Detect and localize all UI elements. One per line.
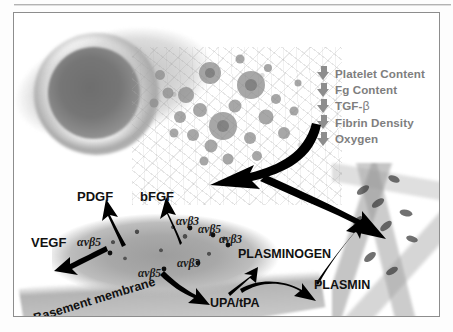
label-integrin-avb5-upper: αvβ5	[198, 223, 221, 235]
label-plasmin: PLASMIN	[314, 278, 370, 292]
figure-canvas: Platelet Content Fg Content TGF-β Fibrin…	[14, 13, 439, 316]
label-pdgf: PDGF	[77, 189, 113, 204]
label-integrin-avb5-vegf: αvβ5	[77, 235, 101, 250]
label-vegf: VEGF	[31, 235, 66, 250]
label-bfgf: bFGF	[140, 189, 174, 204]
integrin-dots-overlay	[14, 13, 439, 316]
label-plasminogen: PLASMINOGEN	[238, 247, 331, 261]
figure-root: Platelet Content Fg Content TGF-β Fibrin…	[0, 0, 453, 332]
integrin-dot	[108, 251, 113, 256]
figure-frame: Platelet Content Fg Content TGF-β Fibrin…	[13, 12, 440, 317]
label-integrin-avb3-right: αvβ3	[219, 233, 242, 245]
label-upa-tpa: UPA/tPA	[210, 296, 260, 310]
label-integrin-avb3-lower: αvβ3	[177, 257, 200, 269]
label-integrin-avb3-upper: αvβ3	[176, 215, 199, 227]
integrin-dot	[162, 267, 167, 272]
page-rule-top-2	[14, 5, 451, 6]
